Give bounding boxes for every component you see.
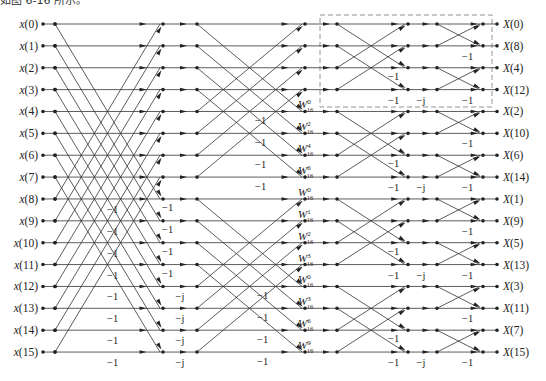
minus-one-label: −1 — [388, 270, 399, 281]
stage1-start-node — [53, 219, 57, 223]
stage4-start-node — [435, 328, 439, 332]
minus-one-label: −1 — [162, 224, 173, 235]
arrow-icon — [473, 171, 480, 176]
stage2-start-node — [195, 132, 199, 136]
input-node — [41, 307, 45, 311]
stage3-end-node — [406, 88, 410, 92]
output-node — [495, 175, 499, 179]
arrow-icon — [323, 197, 330, 201]
input-node — [41, 22, 45, 26]
stage4-start-node — [435, 66, 439, 70]
stage4-end-node — [481, 110, 485, 114]
stage2-end-node — [303, 88, 307, 92]
arrow-icon — [180, 132, 187, 136]
output-label: X(2) — [502, 105, 524, 118]
stage1-start-node — [53, 328, 57, 332]
arrow-icon — [282, 44, 289, 48]
stage1-start-node — [53, 175, 57, 179]
arrow-icon — [473, 215, 480, 220]
arrow-icon — [180, 350, 187, 354]
arrow-icon — [391, 44, 398, 48]
stage4-end-node — [481, 175, 485, 179]
stage4-end-node — [481, 350, 485, 354]
arrow-icon — [156, 277, 161, 284]
stage3-end-node — [406, 307, 410, 311]
stage1-start-node — [53, 44, 57, 48]
stage2-start-node — [195, 175, 199, 179]
arrow-icon — [323, 88, 330, 92]
input-node — [41, 175, 45, 179]
arrow-icon — [140, 132, 147, 136]
arrow-icon — [296, 223, 303, 229]
minus-one-label: −1 — [257, 290, 268, 301]
minus-one-label: −1 — [162, 202, 173, 213]
arrow-icon — [473, 288, 480, 293]
arrow-icon — [156, 92, 161, 99]
arrow-icon — [323, 44, 330, 48]
stage1-end-node — [161, 241, 165, 245]
output-node — [495, 307, 499, 311]
minus-one-label: −1 — [388, 182, 399, 193]
arrow-icon — [282, 197, 289, 201]
arrow-icon — [473, 200, 480, 205]
input-label: x(14) — [13, 324, 38, 337]
stage4-start-node — [435, 132, 439, 136]
arrow-icon — [473, 69, 480, 74]
arrow-icon — [323, 22, 330, 26]
arrow-icon — [323, 153, 330, 157]
arrow-icon — [180, 153, 187, 157]
stage3-start-node — [335, 22, 339, 26]
arrow-icon — [473, 157, 480, 162]
stage4-start-node — [435, 22, 439, 26]
arrow-icon — [423, 350, 430, 354]
output-node — [495, 132, 499, 136]
stage4-start-node — [435, 307, 439, 311]
arrow-icon — [473, 331, 480, 336]
stage3-start-node — [335, 285, 339, 289]
arrow-icon — [140, 263, 147, 267]
stage2-start-node — [195, 350, 199, 354]
arrow-icon — [282, 307, 289, 311]
stage4-start-node — [435, 241, 439, 245]
arrow-icon — [282, 219, 289, 223]
stage2-start-node — [195, 219, 199, 223]
stage4-end-node — [481, 197, 485, 201]
input-node — [41, 153, 45, 157]
fft-butterfly-diagram: x(0)x(1)x(2)x(3)x(4)x(5)x(6)x(7)x(8)x(9)… — [0, 0, 546, 381]
stage1-start-node — [53, 285, 57, 289]
output-label: X(8) — [502, 40, 524, 53]
stage1-end-node — [161, 44, 165, 48]
arrow-icon — [391, 153, 398, 157]
stage4-end-node — [481, 44, 485, 48]
output-node — [495, 66, 499, 70]
butterfly-nodes — [41, 22, 499, 354]
stage3-start-node — [335, 153, 339, 157]
stage1-start-node — [53, 132, 57, 136]
stage3-end-node — [406, 132, 410, 136]
minus-one-label: −1 — [255, 159, 266, 170]
stage4-start-node — [435, 350, 439, 354]
minus-one-label: −1 — [462, 226, 473, 237]
stage2-start-node — [195, 285, 199, 289]
arrow-icon — [423, 263, 430, 267]
arrow-icon — [323, 241, 330, 245]
arrow-icon — [323, 110, 330, 114]
arrow-icon — [140, 197, 147, 201]
stage3-end-node — [406, 219, 410, 223]
output-node — [495, 88, 499, 92]
arrow-icon — [423, 197, 430, 201]
minus-one-label: −1 — [255, 115, 266, 126]
arrow-icon — [473, 127, 480, 132]
arrow-icon — [473, 346, 480, 351]
stage4-start-node — [435, 153, 439, 157]
arrow-icon — [282, 22, 289, 26]
arrow-icon — [140, 285, 147, 289]
minus-one-label: −1 — [462, 138, 473, 149]
arrow-icon — [180, 241, 187, 245]
minus-one-label: −1 — [107, 248, 118, 259]
minus-one-label: −1 — [107, 357, 118, 368]
input-node — [41, 328, 45, 332]
arrow-icon — [282, 328, 289, 332]
output-label: X(9) — [502, 215, 524, 228]
stage1-start-node — [53, 153, 57, 157]
